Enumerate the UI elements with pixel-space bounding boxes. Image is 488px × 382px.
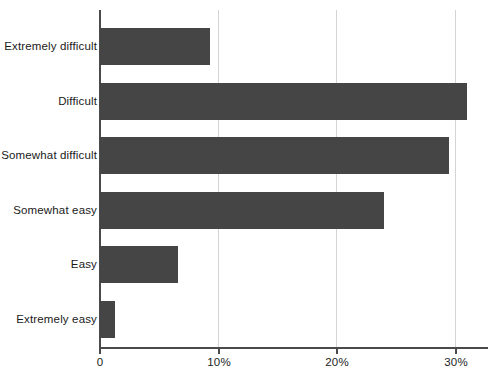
x-tick-label-0: 0 — [97, 356, 104, 368]
gridline-20 — [336, 10, 337, 348]
category-label-easy: Easy — [71, 258, 97, 270]
x-tick-mark-20 — [336, 348, 338, 354]
category-label-somewhat-easy: Somewhat easy — [13, 204, 97, 216]
gridline-10 — [218, 10, 219, 348]
bar-somewhat-difficult — [100, 137, 449, 174]
x-tick-mark-10 — [218, 348, 220, 354]
x-tick-label-10: 10% — [207, 356, 231, 368]
category-label-extremely-easy: Extremely easy — [16, 313, 97, 325]
bar-somewhat-easy — [100, 192, 384, 229]
category-label-difficult: Difficult — [58, 95, 97, 107]
x-tick-label-30: 30% — [444, 356, 468, 368]
bar-chart: 0 10% 20% 30% Extremely difficult Diffic… — [0, 0, 488, 382]
bar-extremely-easy — [100, 301, 115, 338]
x-axis-line — [99, 347, 488, 349]
gridline-30 — [455, 10, 456, 348]
category-label-extremely-difficult: Extremely difficult — [4, 40, 97, 52]
bar-difficult — [100, 83, 467, 120]
x-tick-label-20: 20% — [325, 356, 349, 368]
bar-easy — [100, 246, 178, 283]
x-tick-mark-0 — [99, 348, 101, 354]
x-tick-mark-30 — [455, 348, 457, 354]
category-label-somewhat-difficult: Somewhat difficult — [1, 149, 97, 161]
bar-extremely-difficult — [100, 28, 210, 65]
